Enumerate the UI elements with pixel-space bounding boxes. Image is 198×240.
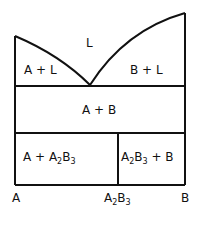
label-part: B [134,150,142,164]
label-part: A [121,150,129,164]
left-liquidus-curve [15,36,90,85]
label-part: A [104,191,112,205]
region-a-plus-liquid: A + L [24,64,57,76]
subscript: 3 [143,157,148,166]
region-compound-plus-b: A2B3 + B [121,151,174,163]
subscript: 2 [129,157,134,166]
subscript: 2 [112,198,117,207]
axis-label-compound: A2B3 [104,192,131,204]
axis-label-a: A [12,192,20,204]
label-part: + B [148,150,174,164]
axis-label-b: B [181,192,189,204]
label-part: A + A [23,150,57,164]
region-b-plus-liquid: B + L [130,64,163,76]
label-part: B [117,191,125,205]
region-liquid: L [86,37,93,49]
subscript: 2 [57,157,62,166]
region-a-plus-b: A + B [82,104,116,116]
region-a-plus-compound: A + A2B3 [23,151,76,163]
subscript: 3 [70,157,75,166]
subscript: 3 [126,198,131,207]
